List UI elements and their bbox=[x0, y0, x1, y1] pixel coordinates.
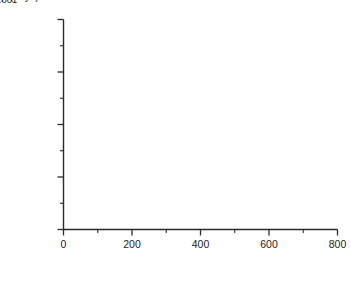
panel-label: A bbox=[0, 0, 4, 3]
x-tick-label: 600 bbox=[260, 238, 278, 250]
x-tick-label: 200 bbox=[123, 238, 141, 250]
y-axis-title: Cumulative survival bbox=[0, 0, 46, 2]
axes bbox=[64, 20, 338, 230]
x-tick-label: 400 bbox=[192, 238, 210, 250]
axis-spines bbox=[64, 20, 338, 230]
kaplan-meier-plot: 0200400600800 p=0.001 Follow-up (days) C… bbox=[0, 0, 351, 283]
survival-curve-figure: 0200400600800 p=0.001 Follow-up (days) C… bbox=[0, 0, 351, 283]
x-tick-label: 0 bbox=[61, 238, 67, 250]
x-tick-labels: 0200400600800 bbox=[61, 238, 347, 250]
x-tick-label: 800 bbox=[329, 238, 347, 250]
axis-ticks bbox=[58, 20, 338, 236]
